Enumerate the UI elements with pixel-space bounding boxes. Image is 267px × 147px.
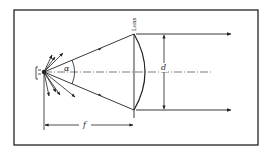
light-source <box>36 53 75 97</box>
angle-label: α <box>64 64 70 73</box>
upper-marginal-ray <box>44 34 134 72</box>
lens-diagram: α Lens d f <box>0 0 267 147</box>
lens <box>134 34 145 118</box>
diameter-label: d <box>161 63 166 72</box>
lens-label: Lens <box>131 18 137 31</box>
